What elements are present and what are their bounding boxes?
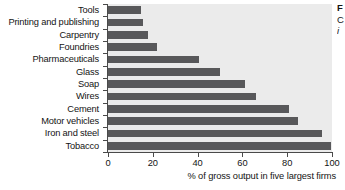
bar-row xyxy=(108,103,332,115)
x-axis-tick-label: 60 xyxy=(227,158,257,169)
bar-row xyxy=(108,66,332,78)
bar-wires xyxy=(108,93,256,101)
category-row: Pharmaceuticals xyxy=(0,53,104,65)
category-row: Motor vehicles xyxy=(0,115,104,127)
caption-line-1: F xyxy=(337,2,345,14)
category-row: Soap xyxy=(0,78,104,90)
bar-cement xyxy=(108,105,289,113)
bar-row xyxy=(108,29,332,41)
category-label-printing-and-publishing: Printing and publishing xyxy=(8,17,99,27)
category-tick xyxy=(103,16,107,17)
x-axis-tick xyxy=(242,153,243,157)
bar-motor-vehicles xyxy=(108,117,298,125)
category-axis: Tools Printing and publishing Carpentry … xyxy=(0,4,104,152)
x-axis-tick xyxy=(332,153,333,157)
category-tick xyxy=(103,78,107,79)
x-axis-tick-label: 80 xyxy=(272,158,302,169)
x-axis-tick-label: 100 xyxy=(317,158,345,169)
bar-row xyxy=(108,90,332,102)
x-axis-tick xyxy=(153,153,154,157)
x-axis-tick xyxy=(287,153,288,157)
category-label-iron-and-steel: Iron and steel xyxy=(45,128,99,138)
bar-row xyxy=(108,115,332,127)
caption-line-2: C xyxy=(337,14,345,26)
caption-line-3: i xyxy=(337,25,345,37)
category-row: Tools xyxy=(0,4,104,16)
category-label-wires: Wires xyxy=(76,91,99,101)
category-tick xyxy=(103,53,107,54)
x-axis-tick-label: 0 xyxy=(93,158,123,169)
x-axis-title: % of gross output in five largest firms xyxy=(0,171,336,182)
category-tick xyxy=(103,103,107,104)
category-tick xyxy=(103,66,107,67)
bar-row xyxy=(108,127,332,139)
category-tick xyxy=(103,127,107,128)
category-row: Foundries xyxy=(0,41,104,53)
x-axis-tick xyxy=(108,153,109,157)
bar-tobacco xyxy=(108,142,331,150)
category-label-cement: Cement xyxy=(67,104,99,114)
category-tick xyxy=(103,29,107,30)
category-row: Glass xyxy=(0,66,104,78)
x-axis-tick xyxy=(198,153,199,157)
bar-foundries xyxy=(108,43,157,51)
bar-row xyxy=(108,4,332,16)
plot-area xyxy=(108,4,332,152)
category-row: Wires xyxy=(0,90,104,102)
bar-chart-figure: Tools Printing and publishing Carpentry … xyxy=(0,0,345,190)
category-row: Printing and publishing xyxy=(0,16,104,28)
category-label-motor-vehicles: Motor vehicles xyxy=(41,116,99,126)
category-tick xyxy=(103,152,107,153)
value-axis-line xyxy=(107,152,333,153)
bar-carpentry xyxy=(108,31,148,39)
bar-row xyxy=(108,53,332,65)
bar-glass xyxy=(108,68,220,76)
x-axis-tick-label: 40 xyxy=(183,158,213,169)
bar-row xyxy=(108,140,332,152)
figure-caption: F C i xyxy=(337,2,345,37)
category-row: Cement xyxy=(0,103,104,115)
category-label-glass: Glass xyxy=(76,67,99,77)
bar-soap xyxy=(108,80,245,88)
category-row: Iron and steel xyxy=(0,127,104,139)
bar-row xyxy=(108,41,332,53)
bar-row xyxy=(108,78,332,90)
category-label-pharmaceuticals: Pharmaceuticals xyxy=(33,54,99,64)
category-tick xyxy=(103,140,107,141)
bar-pharmaceuticals xyxy=(108,56,199,64)
bar-row xyxy=(108,16,332,28)
category-row: Carpentry xyxy=(0,29,104,41)
category-label-tobacco: Tobacco xyxy=(65,141,99,151)
category-tick xyxy=(103,41,107,42)
category-axis-line xyxy=(107,4,108,152)
bar-printing-and-publishing xyxy=(108,19,143,27)
category-label-foundries: Foundries xyxy=(59,42,99,52)
category-tick xyxy=(103,4,107,5)
category-tick xyxy=(103,90,107,91)
bar-iron-and-steel xyxy=(108,130,322,138)
category-label-soap: Soap xyxy=(78,79,99,89)
category-label-carpentry: Carpentry xyxy=(60,30,99,40)
x-axis-tick-label: 20 xyxy=(138,158,168,169)
category-label-tools: Tools xyxy=(78,5,99,15)
category-row: Tobacco xyxy=(0,140,104,152)
category-tick xyxy=(103,115,107,116)
bar-tools xyxy=(108,6,141,14)
